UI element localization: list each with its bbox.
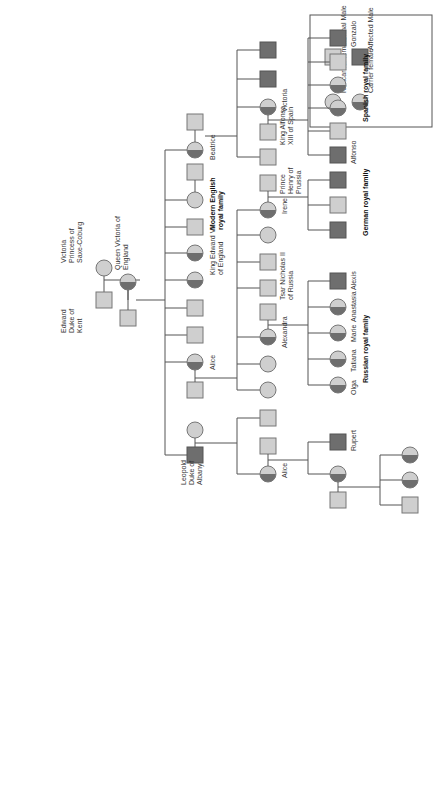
svg-text:LeopoldDuke ofAlbany: LeopoldDuke ofAlbany <box>180 460 204 485</box>
svg-text:Tatiana: Tatiana <box>350 349 357 372</box>
svg-text:King AlfonsoXIII of Spain: King AlfonsoXIII of Spain <box>279 106 295 145</box>
pedigree-diagram: Noncarrier female Carrier female Normal … <box>0 0 446 788</box>
svg-text:Anastasia: Anastasia <box>350 291 357 322</box>
svg-text:German royal family: German royal family <box>362 169 370 236</box>
svg-text:PrinceHenry ofPrussia: PrinceHenry ofPrussia <box>279 167 302 194</box>
legend-affected-male: Affected Male <box>367 7 374 50</box>
svg-text:Alice: Alice <box>209 355 216 370</box>
svg-text:Gonzalo: Gonzalo <box>350 21 357 47</box>
svg-text:Queen Victoria ofEngland: Queen Victoria ofEngland <box>114 216 130 270</box>
svg-text:Beatrice: Beatrice <box>209 134 216 160</box>
svg-text:Marie: Marie <box>350 324 357 342</box>
svg-text:Tsar Nicholas IIof Russia: Tsar Nicholas IIof Russia <box>279 252 294 300</box>
svg-text:VictoriaPrincess ofSaxe-Coburg: VictoriaPrincess ofSaxe-Coburg <box>60 222 84 263</box>
svg-text:Alexandra: Alexandra <box>281 316 288 348</box>
svg-text:Irene: Irene <box>281 198 288 214</box>
svg-text:Spanish royal family: Spanish royal family <box>362 54 370 122</box>
svg-text:EdwardDuke ofKent: EdwardDuke ofKent <box>60 309 83 333</box>
svg-text:Olga: Olga <box>350 380 358 395</box>
svg-text:Modern Englishroyal family: Modern Englishroyal family <box>209 178 225 231</box>
generation-1 <box>96 260 165 326</box>
svg-text:Alfonso: Alfonso <box>350 141 357 164</box>
svg-text:Alexis: Alexis <box>350 271 357 290</box>
svg-text:King Edward VIIof England: King Edward VIIof England <box>209 225 225 275</box>
svg-text:Rupert: Rupert <box>350 430 358 451</box>
svg-text:Russian royal family: Russian royal family <box>362 315 370 383</box>
svg-text:Alice: Alice <box>281 463 288 478</box>
legend: Noncarrier female Carrier female Normal … <box>310 5 432 127</box>
